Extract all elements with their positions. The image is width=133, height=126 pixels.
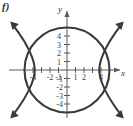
x-tick-label-2: 2 (82, 73, 86, 82)
x-axis-arrow-icon (114, 67, 120, 72)
x-tick-label--2: -2 (47, 73, 54, 82)
x-tick-label-1: 1 (74, 73, 78, 82)
y-tick-label-1: 1 (57, 58, 61, 67)
x-tick-label--4: -4 (30, 73, 37, 82)
y-axis-label: y (57, 4, 62, 14)
figure-container: f) (0, 0, 133, 126)
graph-plot: -4 -2 -1 1 2 4 4 3 2 1 -1 -2 -3 -4 x y (0, 0, 133, 126)
x-axis-label: x (120, 68, 125, 78)
x-tick-label-4: 4 (99, 73, 103, 82)
y-tick-label--4: -4 (56, 100, 63, 109)
y-axis-arrow-icon (64, 11, 69, 17)
